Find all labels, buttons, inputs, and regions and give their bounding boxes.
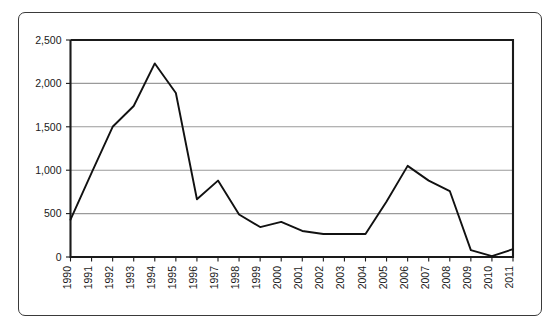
x-axis-tick-label: 2007 [419, 266, 431, 290]
x-axis-tick-label: 2005 [377, 266, 389, 290]
x-axis-tick-label: 2009 [461, 266, 473, 290]
gridlines-group [71, 83, 514, 213]
x-axis-tick-label: 2011 [503, 266, 515, 289]
x-axis-tick-labels: 1990199119921993199419951996199719981999… [61, 266, 516, 290]
y-axis-tick-label: 2,500 [35, 34, 61, 46]
x-axis-tick-label: 2008 [440, 266, 452, 290]
y-axis-tick-label: 1,000 [35, 164, 61, 176]
x-axis-tick-label: 2010 [482, 266, 494, 290]
y-axis-tick-label: 500 [44, 207, 62, 219]
line-chart-figure: 05001,0001,5002,0002,500 199019911992199… [0, 0, 558, 334]
x-axis-tick-label: 1990 [61, 266, 73, 290]
x-axis-tick-label: 1994 [145, 266, 157, 290]
x-axis-tick-label: 2004 [356, 266, 368, 290]
x-axis-tick-label: 1999 [250, 266, 262, 290]
y-axis-tick-label: 0 [56, 251, 62, 263]
x-axis-tick-label: 1993 [124, 266, 136, 290]
x-axis-tick-label: 1992 [103, 266, 115, 290]
x-axis-tick-label: 1996 [187, 266, 199, 290]
x-axis-tick-label: 1997 [208, 266, 220, 290]
x-axis-tick-label: 2006 [398, 266, 410, 290]
data-series-line [71, 63, 514, 256]
x-axis-tick-label: 1991 [82, 266, 94, 290]
chart-plot-svg: 05001,0001,5002,0002,500 199019911992199… [0, 0, 558, 334]
y-axis-tick-label: 2,000 [35, 77, 61, 89]
y-axis-tick-labels: 05001,0001,5002,0002,500 [35, 34, 61, 263]
plot-axis-frame [71, 40, 514, 257]
x-axis-tick-label: 2002 [313, 266, 325, 290]
y-axis-tick-label: 1,500 [35, 121, 61, 133]
x-axis-tick-label: 2000 [271, 266, 283, 290]
x-axis-tick-label: 2003 [334, 266, 346, 290]
x-axis-tick-label: 1995 [166, 266, 178, 290]
x-axis-tick-label: 2001 [292, 266, 304, 290]
x-axis-tick-label: 1998 [229, 266, 241, 290]
